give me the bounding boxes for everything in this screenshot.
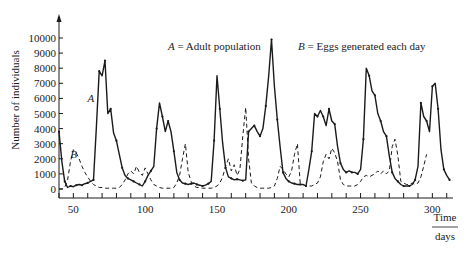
data-point-a <box>167 120 169 122</box>
data-point-a <box>156 128 158 130</box>
x-axis-label-days: days <box>435 230 455 242</box>
data-point-a <box>242 180 244 182</box>
annotation-a-text: = Adult population <box>175 40 261 52</box>
data-point-a <box>219 108 221 110</box>
data-point-a <box>276 118 278 120</box>
data-point-a <box>362 138 364 140</box>
data-point-a <box>173 150 175 152</box>
series-line-b <box>59 108 427 190</box>
data-point-a <box>58 131 60 133</box>
data-point-a <box>380 120 382 122</box>
y-axis-label: Number of individuals <box>9 50 21 150</box>
data-point-a <box>265 105 267 107</box>
x-tick-label: 150 <box>209 203 226 215</box>
data-point-a <box>207 183 209 185</box>
curve-label-a: A <box>86 92 94 104</box>
data-point-a <box>374 94 376 96</box>
data-point-a <box>437 108 439 110</box>
data-point-a <box>253 124 255 126</box>
data-point-a <box>150 170 152 172</box>
y-ticks: 0100020003000400050006000700080009000100… <box>29 32 64 195</box>
data-point-a <box>92 179 94 181</box>
y-tick-label: 7000 <box>34 77 57 89</box>
data-point-a <box>81 184 83 186</box>
data-point-a <box>431 85 433 87</box>
data-point-a <box>213 140 215 142</box>
data-point-a <box>202 185 204 187</box>
data-point-a <box>144 180 146 182</box>
data-point-a <box>414 179 416 181</box>
data-point-a <box>104 60 106 62</box>
data-point-a <box>334 123 336 125</box>
data-point-a <box>403 185 405 187</box>
x-tick-label: 200 <box>281 203 298 215</box>
data-point-a <box>316 115 318 117</box>
x-ticks: 50100150200250300 <box>59 193 447 215</box>
annotation-b: B = Eggs generated each day <box>298 40 426 52</box>
y-tick-label: 1000 <box>34 168 57 180</box>
data-point-a <box>299 183 301 185</box>
data-point-a <box>87 182 89 184</box>
data-point-a <box>121 167 123 169</box>
data-point-a <box>368 75 370 77</box>
data-point-a <box>385 135 387 137</box>
data-point-a <box>270 38 272 40</box>
data-point-a <box>397 180 399 182</box>
data-point-a <box>391 171 393 173</box>
x-tick-label: 250 <box>352 203 369 215</box>
data-point-a <box>247 131 249 133</box>
data-point-a <box>98 70 100 72</box>
data-point-a <box>184 183 186 185</box>
data-point-a <box>230 177 232 179</box>
data-point-a <box>288 180 290 182</box>
series-line-a <box>59 40 450 188</box>
y-tick-label: 6000 <box>34 92 57 104</box>
y-tick-label: 5000 <box>34 108 57 120</box>
data-point-a <box>408 185 410 187</box>
y-tick-label: 10000 <box>29 32 57 44</box>
data-point-a <box>236 178 238 180</box>
data-point-a <box>351 171 353 173</box>
y-tick-label: 2000 <box>34 153 57 165</box>
data-point-a <box>339 162 341 164</box>
population-chart: Number of individuals 010002000300040005… <box>0 0 468 255</box>
data-point-a <box>448 179 450 181</box>
data-point-a <box>328 108 330 110</box>
data-point-a <box>115 140 117 142</box>
annotation-b-text: = Eggs generated each day <box>305 40 426 52</box>
curve-label-b: B <box>70 148 77 160</box>
data-point-a <box>69 185 71 187</box>
data-point-a <box>127 177 129 179</box>
data-point-a <box>420 102 422 104</box>
annotation-a: A = Adult population <box>167 40 261 52</box>
y-tick-label: 4000 <box>34 123 57 135</box>
data-point-a <box>64 180 66 182</box>
data-point-a <box>443 168 445 170</box>
y-tick-label: 8000 <box>34 62 57 74</box>
data-point-a <box>110 108 112 110</box>
data-point-a <box>322 115 324 117</box>
data-point-a <box>311 150 313 152</box>
data-point-a <box>259 135 261 137</box>
y-tick-label: 0 <box>51 183 57 195</box>
series-layer <box>58 38 451 189</box>
x-tick-label: 100 <box>137 203 154 215</box>
y-tick-label: 9000 <box>34 47 57 59</box>
data-point-a <box>293 183 295 185</box>
data-point-a <box>138 183 140 185</box>
data-point-a <box>357 173 359 175</box>
y-tick-label: 3000 <box>34 138 57 150</box>
data-point-a <box>282 171 284 173</box>
y-axis-arrow <box>57 14 62 22</box>
data-point-a <box>133 180 135 182</box>
data-point-a <box>161 115 163 117</box>
data-point-a <box>345 171 347 173</box>
data-point-a <box>196 183 198 185</box>
data-point-a <box>75 184 77 186</box>
x-axis-label-time: Time <box>434 211 457 223</box>
data-point-a <box>426 120 428 122</box>
x-tick-label: 50 <box>68 203 80 215</box>
data-point-a <box>179 179 181 181</box>
